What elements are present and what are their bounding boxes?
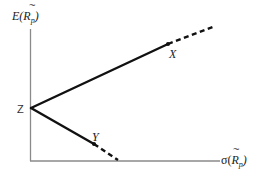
line-x-extension (168, 27, 213, 44)
line-y-extension (94, 144, 118, 160)
label-y: Y (92, 130, 100, 144)
line-z-to-x (31, 44, 168, 108)
point-x (166, 42, 170, 46)
label-z: Z (17, 103, 24, 115)
svg-text:σ(Rp): σ(Rp) (221, 153, 247, 169)
risk-return-diagram: E(Rp) ~ σ(Rp) ~ Z X Y (0, 0, 259, 177)
x-axis-label: σ(Rp) ~ (221, 143, 247, 169)
svg-text:E(Rp): E(Rp) (11, 9, 39, 25)
line-z-to-y (31, 108, 94, 144)
label-x: X (168, 47, 177, 61)
y-axis-label-tilde: ~ (29, 0, 35, 11)
y-axis-label: E(Rp) ~ (11, 0, 39, 25)
x-axis-label-tilde: ~ (233, 143, 239, 155)
